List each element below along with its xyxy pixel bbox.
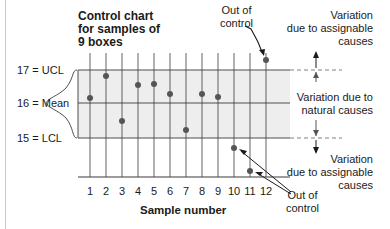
arrowhead-out-bottom-10 bbox=[239, 149, 247, 155]
point-sample-11 bbox=[247, 168, 253, 174]
natural-line-2: natural causes bbox=[297, 104, 373, 117]
tick-12: 12 bbox=[258, 185, 274, 197]
point-sample-7 bbox=[183, 127, 189, 133]
tick-8: 8 bbox=[194, 185, 210, 197]
assignable-top-note: Variation due to assignable causes bbox=[287, 9, 373, 48]
mean-label-prefix: 16 = bbox=[17, 97, 39, 109]
tick-6: 6 bbox=[162, 185, 178, 197]
mean-label: 16 =Mean bbox=[17, 97, 69, 109]
point-sample-10 bbox=[231, 145, 237, 151]
tick-10: 10 bbox=[226, 185, 242, 197]
assign-top-line-2: due to assignable bbox=[287, 22, 373, 35]
tick-3: 3 bbox=[114, 185, 130, 197]
tick-4: 4 bbox=[130, 185, 146, 197]
point-sample-12 bbox=[263, 57, 269, 63]
tick-9: 9 bbox=[210, 185, 226, 197]
point-sample-8 bbox=[199, 91, 205, 97]
point-sample-1 bbox=[87, 95, 93, 101]
lcl-label: 15 = LCL bbox=[17, 132, 62, 144]
point-sample-3 bbox=[119, 118, 125, 124]
tick-11: 11 bbox=[242, 185, 258, 197]
point-sample-2 bbox=[103, 73, 109, 79]
tick-1: 1 bbox=[82, 185, 98, 197]
natural-line-1: Variation due to bbox=[297, 91, 373, 104]
tick-7: 7 bbox=[178, 185, 194, 197]
mean-label-word: Mean bbox=[42, 97, 70, 109]
tick-2: 2 bbox=[98, 185, 114, 197]
assign-bottom-line-2: due to assignable bbox=[287, 166, 373, 179]
point-sample-9 bbox=[215, 94, 221, 100]
natural-note: Variation due to natural causes bbox=[297, 91, 373, 117]
point-sample-5 bbox=[151, 81, 157, 87]
out-bottom-line-2: control bbox=[286, 202, 319, 215]
out-bottom-line-1: Out of bbox=[286, 189, 319, 202]
point-sample-4 bbox=[135, 82, 141, 88]
out-top-line-1: Out of bbox=[220, 4, 253, 17]
assignable-bottom-note: Variation due to assignable causes bbox=[287, 153, 373, 192]
arrowhead-assign-top bbox=[313, 51, 319, 58]
assign-bottom-line-1: Variation bbox=[287, 153, 373, 166]
out-of-control-top-note: Out of control bbox=[220, 4, 253, 30]
point-sample-6 bbox=[167, 91, 173, 97]
arrowhead-out-top bbox=[259, 49, 265, 56]
x-axis-label: Sample number bbox=[140, 204, 226, 216]
assign-top-line-3: causes bbox=[287, 35, 373, 48]
arrowhead-natural-down bbox=[313, 130, 319, 136]
tick-5: 5 bbox=[146, 185, 162, 197]
ucl-label: 17 = UCL bbox=[17, 64, 64, 76]
arrowhead-natural-up bbox=[313, 72, 319, 78]
out-top-line-2: control bbox=[220, 17, 253, 30]
out-of-control-bottom-note: Out of control bbox=[286, 189, 319, 215]
assign-top-line-1: Variation bbox=[287, 9, 373, 22]
